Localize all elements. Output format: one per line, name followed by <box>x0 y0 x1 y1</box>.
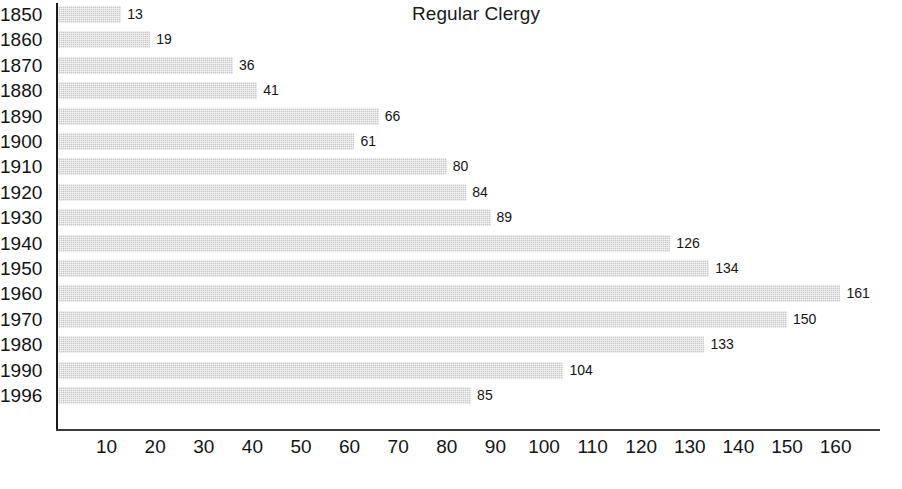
bar <box>58 133 354 150</box>
bar-row: 185013 <box>0 3 902 28</box>
bar <box>58 235 670 252</box>
bar-row: 1980133 <box>0 333 902 358</box>
y-axis-category-label: 1990 <box>0 359 52 384</box>
bar-value-label: 84 <box>472 184 488 201</box>
bar-chart: Regular Clergy 1850131860191870361880411… <box>0 0 902 489</box>
x-axis-tick-label: 130 <box>674 436 706 458</box>
bar-value-label: 19 <box>156 31 172 48</box>
y-axis-category-label: 1920 <box>0 181 52 206</box>
y-axis-category-label: 1880 <box>0 79 52 104</box>
bar <box>58 362 563 379</box>
bar-row: 189066 <box>0 105 902 130</box>
bar-value-label: 126 <box>676 235 699 252</box>
bar-row: 1990104 <box>0 359 902 384</box>
bar-value-label: 89 <box>497 209 513 226</box>
bar-row: 188041 <box>0 79 902 104</box>
bar-value-label: 134 <box>715 260 738 277</box>
bar-value-label: 41 <box>263 82 279 99</box>
bar <box>58 184 466 201</box>
y-axis-category-label: 1970 <box>0 308 52 333</box>
x-axis-tick-label: 120 <box>625 436 657 458</box>
x-axis-tick-label: 150 <box>771 436 803 458</box>
x-axis-line <box>56 429 880 431</box>
y-axis-category-label: 1996 <box>0 384 52 409</box>
x-axis-tick-label: 40 <box>242 436 263 458</box>
x-axis-tick-label: 20 <box>145 436 166 458</box>
x-axis-tick-label: 10 <box>96 436 117 458</box>
x-axis-tick-label: 160 <box>820 436 852 458</box>
bar-value-label: 66 <box>385 108 401 125</box>
bar <box>58 31 150 48</box>
bar-value-label: 61 <box>360 133 376 150</box>
bar-value-label: 161 <box>846 285 869 302</box>
bar-row: 193089 <box>0 206 902 231</box>
bar-value-label: 13 <box>127 6 143 23</box>
bar-row: 187036 <box>0 54 902 79</box>
y-axis-category-label: 1980 <box>0 333 52 358</box>
bar <box>58 285 840 302</box>
bar-value-label: 80 <box>453 158 469 175</box>
bar-value-label: 133 <box>710 336 733 353</box>
bar <box>58 311 787 328</box>
bar-row: 1950134 <box>0 257 902 282</box>
x-axis-tick-label: 90 <box>485 436 506 458</box>
x-axis-tick-label: 140 <box>723 436 755 458</box>
x-axis-tick-label: 80 <box>436 436 457 458</box>
bar <box>58 6 121 23</box>
bar-row: 190061 <box>0 130 902 155</box>
bar <box>58 209 491 226</box>
bar-row: 199685 <box>0 384 902 409</box>
x-axis-tick-label: 30 <box>193 436 214 458</box>
x-axis-tick-label: 100 <box>528 436 560 458</box>
y-axis-category-label: 1900 <box>0 130 52 155</box>
x-axis-tick-label: 70 <box>388 436 409 458</box>
bar-row: 192084 <box>0 181 902 206</box>
bar <box>58 158 447 175</box>
bar <box>58 336 704 353</box>
x-axis-tick-label: 60 <box>339 436 360 458</box>
y-axis-category-label: 1870 <box>0 54 52 79</box>
bar-row: 186019 <box>0 28 902 53</box>
bar-value-label: 150 <box>793 311 816 328</box>
bar-value-label: 104 <box>569 362 592 379</box>
x-axis-tick-label: 110 <box>577 436 607 458</box>
x-axis-tick-label: 50 <box>290 436 311 458</box>
x-axis-tick-labels: 102030405060708090100110120130140150160 <box>0 436 902 464</box>
y-axis-category-label: 1950 <box>0 257 52 282</box>
bar <box>58 108 379 125</box>
bar-value-label: 36 <box>239 57 255 74</box>
plot-area: 1850131860191870361880411890661900611910… <box>0 0 902 489</box>
y-axis-category-label: 1850 <box>0 3 52 28</box>
bar <box>58 387 471 404</box>
bar-row: 191080 <box>0 155 902 180</box>
bar-row: 1940126 <box>0 232 902 257</box>
bar-row: 1960161 <box>0 282 902 307</box>
bar <box>58 57 233 74</box>
y-axis-category-label: 1940 <box>0 232 52 257</box>
y-axis-category-label: 1930 <box>0 206 52 231</box>
y-axis-category-label: 1890 <box>0 105 52 130</box>
bar-value-label: 85 <box>477 387 493 404</box>
bar <box>58 82 257 99</box>
bar <box>58 260 709 277</box>
bar-row: 1970150 <box>0 308 902 333</box>
y-axis-category-label: 1860 <box>0 28 52 53</box>
y-axis-category-label: 1960 <box>0 282 52 307</box>
y-axis-category-label: 1910 <box>0 155 52 180</box>
